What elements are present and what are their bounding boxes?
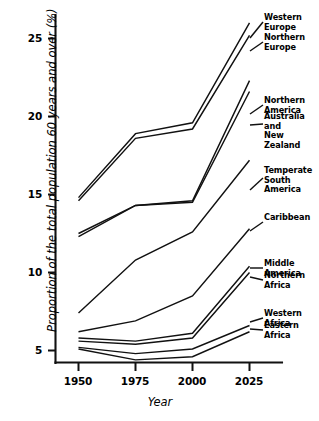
series-label-temperate-south-america: Temperate South America — [264, 166, 319, 195]
series-label-northern-africa: Northern Africa — [264, 271, 319, 290]
series-line-northern-america — [79, 81, 250, 237]
line-chart-figure: 25 20 15 10 5 1950 1975 2000 2025 Year P… — [0, 0, 319, 421]
series-label-caribbean: Caribbean — [264, 213, 310, 223]
series-group — [79, 23, 250, 360]
x-tick-label-1975: 1975 — [115, 375, 155, 387]
series-line-middle-america — [79, 266, 250, 341]
series-label-northern-europe: Northern Europe — [264, 33, 319, 52]
series-label-western-europe: Western Europe — [264, 13, 319, 32]
y-tick-label-25: 25 — [16, 32, 42, 44]
x-tick-label-2025: 2025 — [229, 375, 269, 387]
y-tick-label-15: 15 — [16, 188, 42, 200]
series-line-northern-europe — [79, 35, 250, 200]
series-line-australia-and-new-zealand — [79, 92, 250, 234]
y-tick-label-10: 10 — [16, 266, 42, 278]
y-tick-label-5: 5 — [16, 344, 42, 356]
x-axis-title: Year — [120, 395, 200, 409]
x-tick-label-2000: 2000 — [172, 375, 212, 387]
x-tick-label-1950: 1950 — [58, 375, 98, 387]
series-line-temperate-south-america — [79, 160, 250, 313]
y-tick-label-20: 20 — [16, 110, 42, 122]
series-label-australia-new-zealand: Australia and New Zealand — [264, 112, 319, 150]
label-leader-lines — [250, 22, 263, 330]
series-line-western-europe — [79, 23, 250, 198]
series-label-eastern-africa: Eastern Africa — [264, 321, 319, 340]
series-line-caribbean — [79, 229, 250, 332]
y-axis-title: Proportion of the total population 60 ye… — [45, 32, 59, 332]
